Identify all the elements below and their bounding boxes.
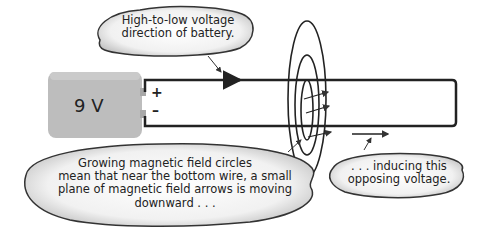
callout-text-top: High-to-low voltage direction of battery…: [108, 14, 248, 40]
battery-voltage-label: 9 V: [74, 95, 104, 116]
callout-br-line-2: opposing voltage.: [336, 173, 462, 186]
induction-diagram: High-to-low voltage direction of battery…: [0, 0, 482, 232]
callout-top-line-2: direction of battery.: [108, 27, 248, 40]
callout-bl-line-3: plane of magnetic field arrows is moving: [44, 183, 306, 196]
magnetic-field-rings: [288, 21, 326, 177]
battery-plus-terminal: +: [151, 84, 163, 100]
battery-minus-terminal: –: [152, 102, 159, 118]
callout-text-bottom-right: . . . inducing this opposing voltage.: [336, 160, 462, 186]
callout-text-bottom-left: Growing magnetic field circles mean that…: [44, 157, 306, 210]
callout-bl-line-4: downward . . .: [44, 197, 306, 210]
